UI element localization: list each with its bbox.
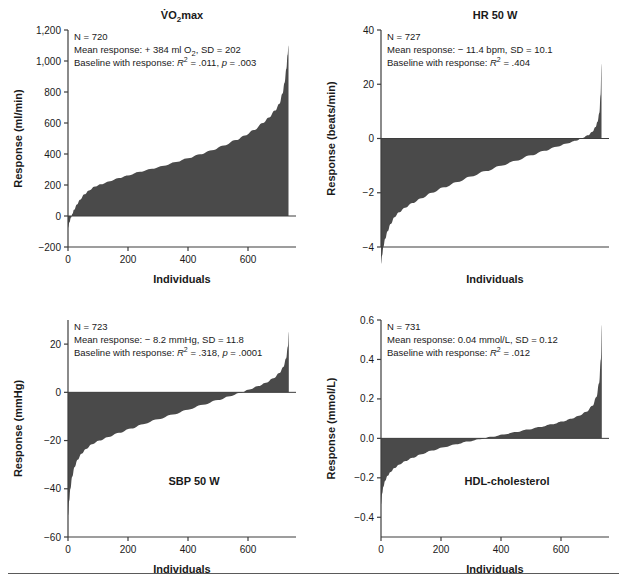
figure-footer-rule bbox=[8, 573, 619, 574]
annotation-line-mean: Mean response: − 11.4 bpm, SD = 10.1 bbox=[387, 44, 553, 55]
y-axis-title: Response (beats/min) bbox=[325, 81, 337, 196]
x-axis-title: Individuals bbox=[466, 273, 523, 285]
y-axis-title: Response (mmHg) bbox=[12, 380, 24, 478]
chart-panel-sbp50w: −60−40−200200200400600IndividualsRespons… bbox=[0, 290, 313, 580]
y-tick-label: −200 bbox=[38, 242, 61, 253]
figure-panel-grid: −20002004006008001,0001,2000200400600Ind… bbox=[0, 0, 627, 581]
panel-title: HR 50 W bbox=[473, 9, 518, 21]
y-tick-label: 20 bbox=[50, 339, 62, 350]
x-axis-title: Individuals bbox=[153, 273, 210, 285]
x-tick-label: 200 bbox=[433, 544, 450, 555]
chart-svg-hdl: −0.4−0.20.00.20.40.60200400600Individual… bbox=[313, 290, 626, 580]
y-tick-label: 0 bbox=[55, 211, 61, 222]
annotation-line-n: N = 727 bbox=[387, 31, 421, 42]
y-tick-label: 20 bbox=[363, 79, 375, 90]
chart-svg-hr50w: −4−202040IndividualsResponse (beats/min)… bbox=[313, 0, 626, 290]
chart-panel-hr50w: −4−202040IndividualsResponse (beats/min)… bbox=[313, 0, 626, 290]
chart-panel-hdl-cholesterol: −0.4−0.20.00.20.40.60200400600Individual… bbox=[313, 290, 626, 580]
annotation-line-baseline: Baseline with response: R2 = .318, p = .… bbox=[74, 346, 262, 358]
x-tick-label: 400 bbox=[180, 544, 197, 555]
x-tick-label: 600 bbox=[240, 254, 257, 265]
y-tick-label: 0 bbox=[55, 387, 61, 398]
chart-svg-vo2max: −20002004006008001,0001,2000200400600Ind… bbox=[0, 0, 313, 290]
y-axis-title: Response (ml/min) bbox=[12, 89, 24, 188]
y-tick-label: 1,000 bbox=[36, 56, 61, 67]
x-tick-label: 200 bbox=[120, 254, 137, 265]
annotation-line-mean: Mean response: 0.04 mmol/L, SD = 0.12 bbox=[387, 334, 558, 345]
annotation-line-n: N = 720 bbox=[74, 31, 108, 42]
x-tick-label: 400 bbox=[493, 544, 510, 555]
y-tick-label: 40 bbox=[363, 25, 375, 36]
annotation-line-baseline: Baseline with response: R2 = .012 bbox=[387, 346, 530, 358]
x-tick-label: 600 bbox=[240, 544, 257, 555]
y-tick-label: −0.4 bbox=[354, 512, 374, 523]
data-area-sbp50w bbox=[68, 332, 289, 515]
in-plot-label: HDL-cholesterol bbox=[465, 475, 550, 487]
y-tick-label: −40 bbox=[44, 483, 61, 494]
annotation-line-mean: Mean response: − 8.2 mmHg, SD = 11.8 bbox=[74, 334, 244, 345]
y-tick-label: 0.6 bbox=[360, 315, 374, 326]
y-tick-label: 800 bbox=[44, 87, 61, 98]
x-tick-label: 600 bbox=[553, 544, 570, 555]
y-tick-label: −4 bbox=[363, 242, 375, 253]
data-area-vo2max bbox=[68, 46, 289, 228]
y-tick-label: 600 bbox=[44, 118, 61, 129]
y-tick-label: 0.2 bbox=[360, 393, 374, 404]
y-tick-label: 1,200 bbox=[36, 25, 61, 36]
x-tick-label: 0 bbox=[378, 544, 384, 555]
x-tick-label: 200 bbox=[120, 544, 137, 555]
x-tick-label: 400 bbox=[180, 254, 197, 265]
y-axis-title: Response (mmol/L) bbox=[325, 377, 337, 479]
y-tick-label: 200 bbox=[44, 180, 61, 191]
in-plot-label: SBP 50 W bbox=[168, 475, 220, 487]
y-tick-label: 0 bbox=[368, 133, 374, 144]
x-tick-label: 0 bbox=[65, 254, 71, 265]
annotation-line-baseline: Baseline with response: R2 = .404 bbox=[387, 56, 530, 68]
y-tick-label: −20 bbox=[44, 435, 61, 446]
annotation-line-mean: Mean response: + 384 ml O2, SD = 202 bbox=[74, 44, 241, 58]
chart-panel-vo2max: −20002004006008001,0001,2000200400600Ind… bbox=[0, 0, 313, 290]
annotation-line-n: N = 723 bbox=[74, 321, 108, 332]
y-tick-label: 0.0 bbox=[360, 433, 374, 444]
x-tick-label: 0 bbox=[65, 544, 71, 555]
y-tick-label: −0.2 bbox=[354, 472, 374, 483]
annotation-line-n: N = 731 bbox=[387, 321, 421, 332]
y-tick-label: −2 bbox=[363, 187, 375, 198]
y-tick-label: 400 bbox=[44, 149, 61, 160]
chart-svg-sbp50w: −60−40−200200200400600IndividualsRespons… bbox=[0, 290, 313, 580]
annotation-line-baseline: Baseline with response: R2 = .011, p = .… bbox=[74, 56, 256, 68]
data-area-hr50w bbox=[381, 64, 602, 264]
panel-title: V̇O2max bbox=[161, 9, 204, 24]
y-tick-label: 0.4 bbox=[360, 354, 374, 365]
y-tick-label: −60 bbox=[44, 532, 61, 543]
